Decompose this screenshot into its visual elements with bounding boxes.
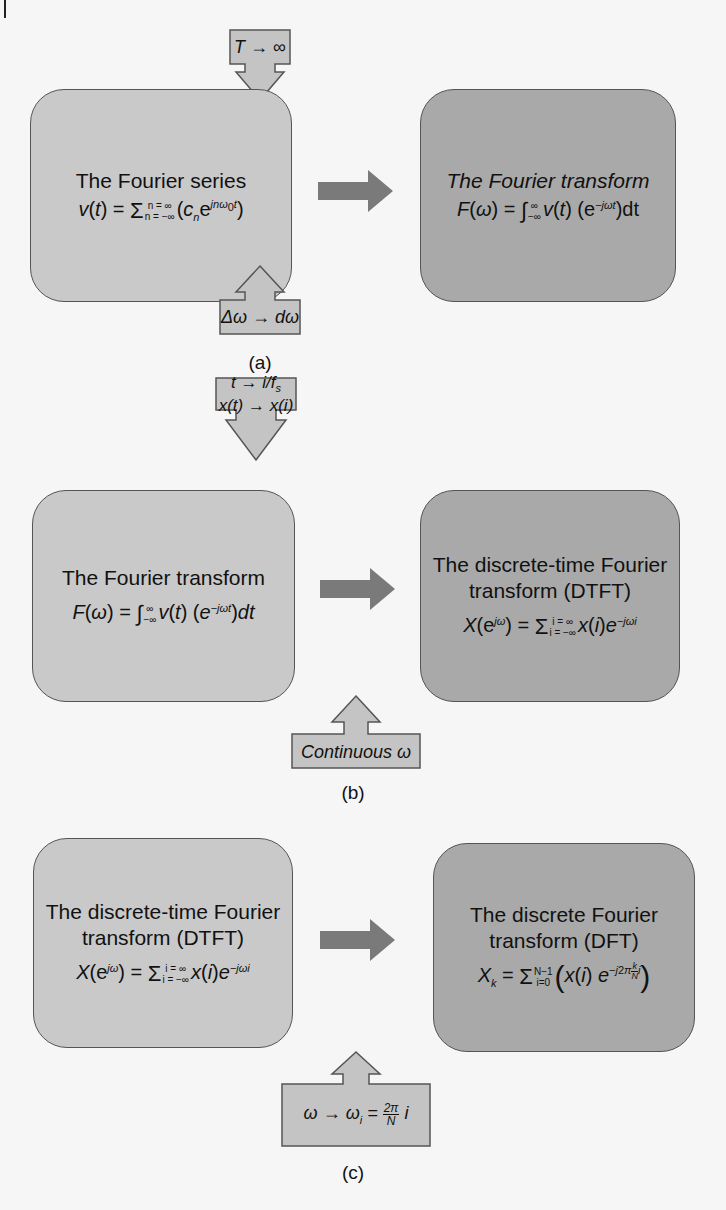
dft-formula: Xk = ΣN−1i=0(x(i) e−j2πkNi) [478,960,651,994]
fourier-transform-formula: F(ω) = ∫∞−∞v(t) (e−jωt)dt [457,198,639,224]
dtft-formula: X(ejω) = Σi = ∞i = −∞x(i)e−jωi [76,961,250,987]
right-arrow-icon [318,170,394,212]
dtft-box-c: The discrete-time Fourier transform (DTF… [33,838,293,1048]
box-title: The Fourier series [76,168,246,194]
box-title-line1: The discrete-time Fourier [433,552,668,578]
condition-t-to-infinity: T → ∞ [230,30,290,64]
box-title-line2: transform (DFT) [489,928,638,954]
condition-delta-omega: Δω → dω [220,300,300,334]
right-arrow-icon [320,568,396,610]
condition-discrete-omega: ω → ωi = 2πN i [282,1086,430,1146]
dtft-formula: X(ejω) = Σi = ∞i = −∞x(i)e−jωi [463,614,637,640]
box-title-line2: transform (DTFT) [469,578,631,604]
box-title-line1: The discrete-time Fourier [46,899,281,925]
panel-label-b: (b) [333,782,373,804]
panel-label-c: (c) [333,1162,373,1184]
dft-box: The discrete Fourier transform (DFT) Xk … [433,843,695,1052]
panel-label-a: (a) [240,352,280,374]
fourier-series-formula: v(t) = Σn = ∞n = −∞(cnejnω0t) [78,198,243,224]
page-margin-mark [4,0,6,18]
condition-sampling: t → i/fs x(t) → x(i) [216,378,296,410]
box-title-line1: The discrete Fourier [470,902,658,928]
box-title-line2: transform (DTFT) [82,925,244,951]
box-title: The Fourier transform [62,565,265,591]
box-title: The Fourier transform [446,168,649,194]
fourier-transform-formula: F(ω) = ∫∞−∞v(t) (e−jωt)dt [72,601,254,627]
dtft-box: The discrete-time Fourier transform (DTF… [420,490,680,702]
right-arrow-icon [320,919,396,961]
fourier-transform-box-b: The Fourier transform F(ω) = ∫∞−∞v(t) (e… [32,490,295,702]
fourier-transform-box: The Fourier transform F(ω) = ∫∞−∞v(t) (e… [420,89,676,302]
condition-continuous-omega: Continuous ω [292,736,420,768]
